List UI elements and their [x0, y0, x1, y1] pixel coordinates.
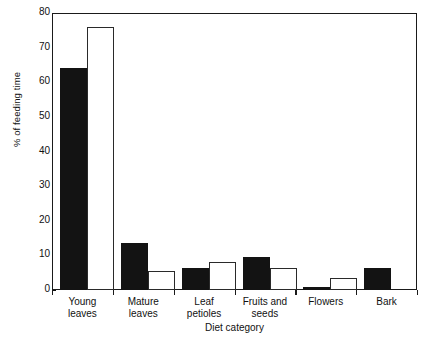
y-tick-label: 0 — [22, 284, 50, 294]
x-axis-title: Diet category — [52, 322, 417, 333]
x-tick-label-line: petioles — [174, 308, 235, 320]
y-tick-label: 60 — [22, 76, 50, 86]
bar-open — [87, 27, 114, 290]
y-tick-label: 20 — [22, 215, 50, 225]
x-tick-mark — [235, 290, 236, 295]
chart-figure: % of feeding time 01020304050607080 Youn… — [0, 0, 440, 340]
y-axis-ticks: 01020304050607080 — [20, 0, 50, 290]
x-tick-mark — [295, 290, 296, 295]
y-tick-label: 30 — [22, 180, 50, 190]
bar-group — [356, 13, 417, 290]
x-tick-label: Leafpetioles — [174, 296, 235, 319]
bar-filled — [243, 257, 270, 290]
y-tick-label: 10 — [22, 249, 50, 259]
bar-open — [330, 278, 357, 290]
y-tick-label: 70 — [22, 42, 50, 52]
x-tick-label-line: Young — [52, 296, 113, 308]
x-tick-label-line: Bark — [356, 296, 417, 308]
bar-group — [174, 13, 235, 290]
x-tick-label: Fruits andseeds — [235, 296, 296, 319]
y-tick-label: 80 — [22, 7, 50, 17]
x-tick-mark — [356, 290, 357, 295]
y-tick-label: 50 — [22, 111, 50, 121]
x-tick-label-line: seeds — [235, 308, 296, 320]
x-tick-label: Flowers — [295, 296, 356, 308]
x-tick-label-line: leaves — [113, 308, 174, 320]
bar-filled — [303, 287, 330, 290]
bars-layer — [52, 13, 417, 290]
x-tick-label: Bark — [356, 296, 417, 308]
bar-filled — [364, 268, 391, 291]
x-tick-mark — [417, 290, 418, 295]
bar-open — [270, 268, 297, 291]
x-tick-mark — [52, 290, 53, 295]
x-tick-mark — [113, 290, 114, 295]
bar-filled — [182, 268, 209, 291]
bar-filled — [121, 243, 148, 290]
x-tick-label-line: leaves — [52, 308, 113, 320]
x-tick-label-line: Flowers — [295, 296, 356, 308]
bar-filled — [60, 68, 87, 290]
bar-group — [113, 13, 174, 290]
x-tick-label: Youngleaves — [52, 296, 113, 319]
bar-group — [295, 13, 356, 290]
bar-open — [148, 271, 175, 290]
bar-open — [209, 262, 236, 290]
bar-group — [235, 13, 296, 290]
x-tick-label-line: Fruits and — [235, 296, 296, 308]
y-tick-label: 40 — [22, 146, 50, 156]
x-tick-mark — [174, 290, 175, 295]
x-tick-label: Matureleaves — [113, 296, 174, 319]
bar-group — [52, 13, 113, 290]
x-tick-label-line: Leaf — [174, 296, 235, 308]
x-tick-label-line: Mature — [113, 296, 174, 308]
